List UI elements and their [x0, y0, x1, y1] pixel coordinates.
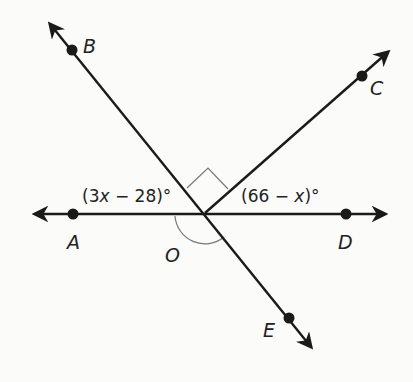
label-D: D: [338, 231, 353, 253]
label-B: B: [83, 35, 96, 57]
right-angle-mark: [187, 168, 228, 189]
angle-label-cod: (66 − x)°: [241, 186, 320, 206]
label-E: E: [263, 319, 275, 341]
point-A: [68, 209, 79, 220]
point-C: [357, 71, 368, 82]
angle-label-aob: (3x − 28)°: [82, 186, 171, 206]
point-B: [67, 45, 78, 56]
label-A: A: [67, 231, 80, 253]
label-O: O: [165, 244, 180, 266]
label-C: C: [370, 77, 383, 99]
geometry-diagram: [0, 0, 413, 382]
point-D: [341, 209, 352, 220]
point-E: [284, 313, 295, 324]
